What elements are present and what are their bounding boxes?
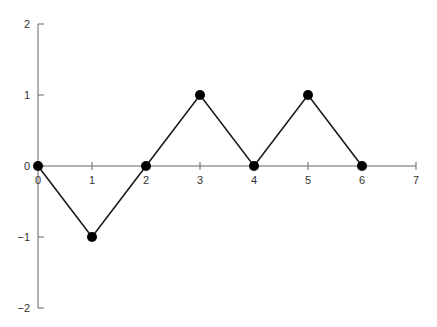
x-tick-label: 6 — [359, 174, 365, 186]
y-tick-label: 1 — [24, 89, 30, 101]
x-tick-label: 1 — [89, 174, 95, 186]
x-tick-label: 4 — [251, 174, 257, 186]
x-tick-label: 5 — [305, 174, 311, 186]
data-point-marker — [195, 90, 205, 100]
y-tick-label: 2 — [24, 18, 30, 30]
data-point-marker — [249, 161, 259, 171]
y-tick-label: 0 — [24, 160, 30, 172]
line-chart: −2−101201234567 — [0, 0, 437, 327]
x-tick-label: 2 — [143, 174, 149, 186]
data-point-marker — [141, 161, 151, 171]
x-tick-label: 0 — [35, 174, 41, 186]
y-tick-label: −1 — [17, 231, 30, 243]
x-tick-label: 3 — [197, 174, 203, 186]
x-tick-label: 7 — [413, 174, 419, 186]
data-point-marker — [357, 161, 367, 171]
data-point-marker — [33, 161, 43, 171]
data-point-marker — [87, 232, 97, 242]
y-tick-label: −2 — [17, 302, 30, 314]
data-point-marker — [303, 90, 313, 100]
